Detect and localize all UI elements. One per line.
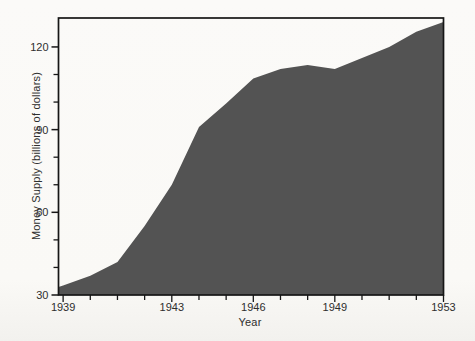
money-supply-area-chart: 30609012019391943194619491953 [0, 0, 475, 341]
x-tick-label: 1946 [241, 301, 265, 313]
x-tick-label: 1953 [431, 301, 455, 313]
x-tick-label: 1943 [160, 301, 184, 313]
y-tick-label: 120 [30, 41, 48, 53]
money-supply-figure: 30609012019391943194619491953 Money Supp… [0, 0, 475, 341]
money-supply-area [59, 22, 444, 295]
x-axis-title: Year [238, 316, 261, 328]
x-tick-label: 1939 [51, 301, 75, 313]
y-tick-label: 30 [36, 289, 48, 301]
x-tick-label: 1949 [323, 301, 347, 313]
y-axis-title: Money Supply (billions of dollars) [30, 72, 42, 240]
